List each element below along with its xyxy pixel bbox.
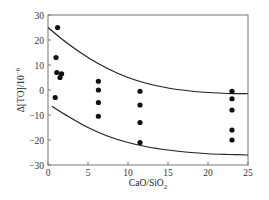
y-tick-label: 10 (35, 61, 45, 71)
bound-curves (48, 28, 248, 156)
x-tick-label: 25 (243, 168, 253, 178)
data-point (137, 89, 142, 94)
data-markers (53, 25, 235, 145)
x-tick-label: 20 (203, 168, 213, 178)
data-point (229, 89, 234, 94)
data-point (54, 70, 59, 75)
y-tick-label: 0 (39, 86, 44, 96)
data-point (53, 95, 58, 100)
data-point (96, 79, 101, 84)
scatter-chart: 3020100−10−20−30 0510152025 CaO/SiO2 Δ[T… (0, 0, 269, 200)
data-point (229, 127, 234, 132)
plot-frame (48, 15, 248, 165)
data-point (96, 100, 101, 105)
data-point (57, 75, 62, 80)
data-point (137, 120, 142, 125)
upper-bound-curve (48, 28, 248, 94)
data-point (229, 107, 234, 112)
data-point (96, 114, 101, 119)
x-tick-label: 0 (46, 168, 51, 178)
x-axis-ticks: 0510152025 (46, 162, 253, 178)
data-point (229, 96, 234, 101)
data-point (137, 140, 142, 145)
y-tick-label: −20 (29, 136, 44, 146)
data-point (229, 137, 234, 142)
y-tick-label: 30 (35, 11, 45, 21)
y-axis-title: Δ[TO]/10−6 (14, 67, 26, 112)
x-tick-label: 10 (123, 168, 133, 178)
y-tick-label: −10 (29, 111, 44, 121)
data-point (55, 25, 60, 30)
data-point (53, 55, 58, 60)
data-point (137, 102, 142, 107)
y-tick-label: −30 (29, 161, 44, 171)
y-tick-label: 20 (35, 36, 45, 46)
plot-border (48, 15, 248, 165)
x-tick-label: 15 (163, 168, 173, 178)
lower-bound-curve (52, 106, 248, 155)
x-tick-label: 5 (86, 168, 91, 178)
data-point (96, 87, 101, 92)
x-axis-title: CaO/SiO2 (129, 178, 168, 191)
